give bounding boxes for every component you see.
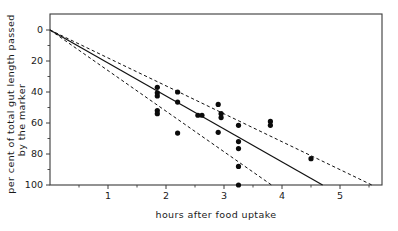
figure-container: 020406080100 12345 hours after food upta… [0,0,398,231]
y-tick-label: 0 [37,24,43,35]
data-point [155,93,160,98]
y-tick-label: 100 [25,179,43,190]
data-point [219,115,224,120]
data-point [268,123,273,128]
data-point [155,111,160,116]
data-point [155,85,160,90]
data-point [236,164,241,169]
x-tick-label: 1 [105,190,111,201]
data-point [236,146,241,151]
data-point [236,182,241,187]
y-tick-label: 80 [31,148,43,159]
data-point [216,130,221,135]
data-point [175,89,180,94]
y-axis-title-line-1: per cent of total gut length passed [5,14,16,193]
x-tick-label: 4 [279,190,285,201]
data-point [175,130,180,135]
data-point [236,139,241,144]
scatter-plot: 020406080100 12345 hours after food upta… [0,0,398,231]
x-tick-label: 5 [337,190,343,201]
data-point [175,99,180,104]
x-tick-label: 3 [221,190,227,201]
data-point [199,113,204,118]
data-point [216,102,221,107]
x-axis-title: hours after food uptake [155,209,276,220]
data-point [236,123,241,128]
y-tick-label: 60 [31,117,43,128]
y-tick-label: 40 [31,86,43,97]
x-tick-label: 2 [163,190,169,201]
y-tick-label: 20 [31,55,43,66]
y-axis-title-line-2: by the marker [16,84,27,156]
data-point [308,156,313,161]
